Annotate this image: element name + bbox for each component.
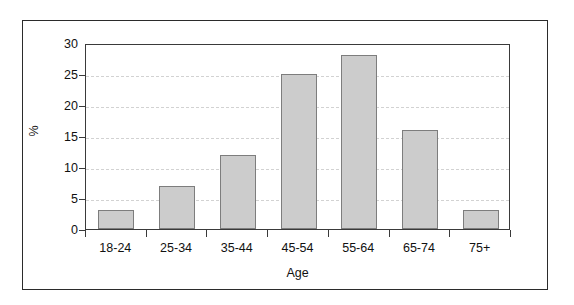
y-axis-tick-label: 0 (52, 224, 78, 237)
x-axis-tick-mark (389, 230, 390, 237)
bar (159, 186, 195, 229)
x-axis-tick-label: 65-74 (403, 241, 435, 255)
x-axis-tick-mark (328, 230, 329, 237)
y-axis-tick-mark (79, 106, 85, 107)
y-axis-label: % (27, 125, 41, 136)
bar (98, 210, 134, 229)
x-axis-tick-mark (510, 230, 511, 237)
y-axis-tick-mark (79, 230, 85, 231)
x-axis-tick-mark (206, 230, 207, 237)
x-axis-tick-label: 75+ (469, 241, 490, 255)
x-axis-tick-label: 18-24 (99, 241, 131, 255)
x-axis-tick-label: 55-64 (342, 241, 374, 255)
plot-area (85, 44, 510, 230)
x-axis-label: Age (85, 266, 510, 280)
y-axis-tick-label: 5 (52, 193, 78, 206)
bar (281, 74, 317, 229)
y-axis-tick-mark (79, 168, 85, 169)
y-axis-tick-label: 10 (52, 162, 78, 175)
y-axis-tick-labels: 051015202530 (50, 44, 78, 230)
x-axis-tick-label: 25-34 (160, 241, 192, 255)
y-axis-tick-mark (79, 137, 85, 138)
bar (402, 130, 438, 229)
x-axis-tick-mark (267, 230, 268, 237)
x-axis-tick-mark (85, 230, 86, 237)
bar (463, 210, 499, 229)
x-axis-tick-label: 35-44 (221, 241, 253, 255)
y-axis-tick-label: 15 (52, 131, 78, 144)
y-axis-tick-label: 25 (52, 69, 78, 82)
bar (220, 155, 256, 229)
x-axis-tick-mark (449, 230, 450, 237)
y-axis-tick-label: 30 (52, 38, 78, 51)
x-axis-tick-label: 45-54 (282, 241, 314, 255)
y-axis-tick-label: 20 (52, 100, 78, 113)
x-axis-ticks: 18-2425-3435-4445-5455-6465-7475+ (85, 230, 510, 270)
y-axis-tick-mark (79, 199, 85, 200)
bar (341, 55, 377, 229)
x-axis-tick-mark (146, 230, 147, 237)
y-axis-tick-mark (79, 75, 85, 76)
bar-chart-figure: % 051015202530 18-2425-3435-4445-5455-64… (0, 0, 574, 305)
